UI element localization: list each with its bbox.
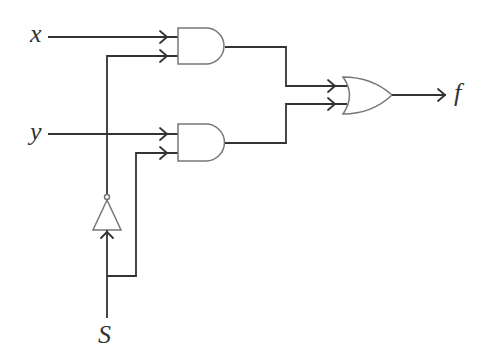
and-gate-bottom <box>178 124 224 161</box>
or-gate <box>343 77 392 114</box>
label-f: f <box>454 80 461 106</box>
label-s: S <box>98 322 111 348</box>
wire-f <box>392 89 446 101</box>
circuit-svg <box>0 0 487 358</box>
wire-y <box>48 128 178 140</box>
circuit-diagram: x y S f <box>0 0 487 358</box>
not-gate <box>93 195 121 231</box>
wire-and2-out <box>225 98 347 143</box>
wire-not-s <box>107 50 178 195</box>
wire-x <box>48 31 178 43</box>
label-x: x <box>30 21 42 47</box>
and-gate-top <box>178 28 224 64</box>
label-y: y <box>30 119 42 145</box>
wire-s <box>101 230 113 318</box>
wire-s-branch <box>107 147 178 276</box>
wire-and1-out <box>225 47 347 92</box>
